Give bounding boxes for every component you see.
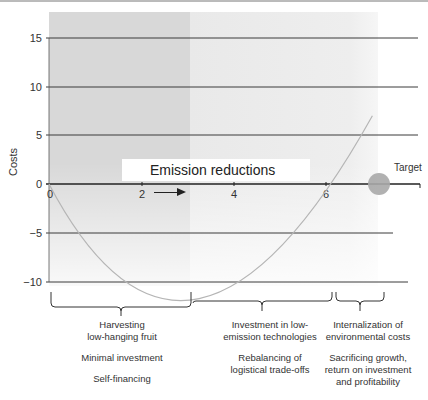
phase1-caption: Harvesting low-hanging fruit Minimal inv… bbox=[55, 319, 189, 394]
y-tick-neg5: −5 bbox=[29, 227, 42, 239]
y-tick-labels: 15 10 5 0 −5 −10 bbox=[23, 32, 42, 288]
phase2-detail-1: Rebalancing of logistical trade-offs bbox=[212, 352, 328, 376]
y-axis-title: Costs bbox=[7, 147, 19, 176]
phase3-caption: Internalization of environmental costs S… bbox=[318, 319, 418, 397]
y-tick-neg10: −10 bbox=[23, 276, 42, 288]
y-tick-0: 0 bbox=[36, 178, 42, 190]
x-tick-2: 2 bbox=[139, 188, 145, 200]
phase3-title: Internalization of environmental costs bbox=[318, 319, 418, 343]
emission-reductions-text: Emission reductions bbox=[150, 162, 275, 178]
right-arrow-icon bbox=[154, 192, 184, 193]
y-tick-5: 5 bbox=[36, 129, 42, 141]
phase1-title: Harvesting low-hanging fruit bbox=[55, 319, 189, 343]
phase1-detail-2: Self-financing bbox=[55, 373, 189, 385]
target-label: Target bbox=[394, 162, 422, 173]
region-fade bbox=[49, 12, 378, 286]
phase-braces bbox=[51, 292, 384, 316]
target-marker bbox=[368, 173, 390, 195]
phase3-detail-1: Sacrificing growth, return on investment… bbox=[318, 352, 418, 388]
y-tick-15: 15 bbox=[30, 32, 42, 44]
emission-reductions-label: Emission reductions bbox=[122, 159, 310, 181]
y-tick-10: 10 bbox=[30, 81, 42, 93]
x-tick-4: 4 bbox=[231, 188, 237, 200]
phase1-detail-1: Minimal investment bbox=[55, 352, 189, 364]
phase2-caption: Investment in low- emission technologies… bbox=[212, 319, 328, 385]
phase2-title: Investment in low- emission technologies bbox=[212, 319, 328, 343]
